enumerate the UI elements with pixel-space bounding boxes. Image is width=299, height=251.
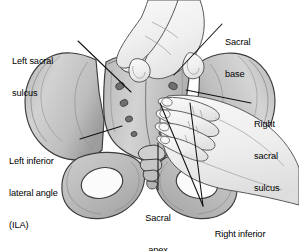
- label-right-sacral-sulcus-line2: sacral: [254, 151, 279, 162]
- label-right-inferior-lateral-angle: Right inferior lateral angle (ILA): [187, 208, 293, 251]
- label-left-ila-line2: lateral angle: [9, 188, 58, 199]
- label-sacral-apex-line2: apex: [133, 245, 183, 251]
- label-sacral-base-line2: base: [225, 69, 250, 80]
- label-right-sacral-sulcus: Right sacral sulcus: [254, 98, 279, 204]
- label-left-sacral-sulcus-line2: sulcus: [12, 88, 53, 99]
- right-thumb-tip: [183, 53, 204, 79]
- label-left-sacral-sulcus: Left sacral sulcus: [12, 35, 53, 109]
- pubic-symphysis: [143, 170, 159, 181]
- upper-hand-thumbs: [116, 0, 204, 82]
- label-left-sacral-sulcus-line1: Left sacral: [12, 56, 53, 67]
- label-right-ila-line1: Right inferior: [187, 229, 293, 240]
- label-right-sacral-sulcus-line3: sulcus: [254, 183, 279, 194]
- label-sacral-apex: Sacral apex: [133, 192, 183, 251]
- label-sacral-base: Sacral base: [225, 16, 250, 90]
- label-right-sacral-sulcus-line1: Right: [254, 119, 279, 130]
- label-left-ila-line1: Left inferior: [9, 156, 58, 167]
- label-left-inferior-lateral-angle: Left inferior lateral angle (ILA): [9, 135, 58, 241]
- label-sacral-base-line1: Sacral: [225, 37, 250, 48]
- label-sacral-apex-line1: Sacral: [133, 213, 183, 224]
- label-left-ila-line3: (ILA): [9, 220, 58, 231]
